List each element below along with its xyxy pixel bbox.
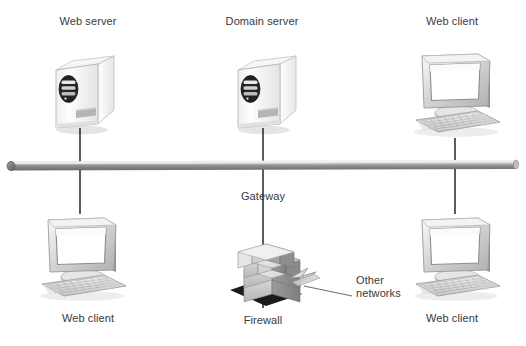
label-firewall: Firewall	[244, 314, 283, 327]
node-firewall[interactable]	[230, 244, 302, 306]
network-backbone-bus	[7, 160, 519, 171]
diagram-graphics-layer	[0, 0, 526, 346]
label-domain-server: Domain server	[226, 15, 299, 28]
node-web-server[interactable]	[56, 56, 114, 134]
node-domain-server[interactable]	[238, 56, 296, 134]
label-web-client-top-right: Web client	[426, 15, 478, 28]
label-web-client-bottom-left: Web client	[62, 312, 114, 325]
label-gateway: Gateway	[241, 190, 285, 203]
node-web-client-bottom-left[interactable]	[40, 218, 126, 301]
label-web-client-bottom-right: Web client	[426, 312, 478, 325]
label-other-networks-line2: networks	[356, 287, 401, 300]
other-networks-leader-line	[304, 286, 352, 296]
node-web-client-top-right[interactable]	[414, 54, 500, 137]
label-web-server: Web server	[59, 15, 116, 28]
node-web-client-bottom-right[interactable]	[414, 218, 500, 301]
label-other-networks-line1: Other	[356, 274, 384, 287]
network-diagram-canvas: Web server Domain server Web client Web …	[0, 0, 526, 346]
